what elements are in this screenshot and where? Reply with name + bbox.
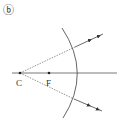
center-point (19, 72, 22, 75)
lower-reflected-ray (74, 99, 102, 111)
upper-reflected-ray (75, 34, 103, 47)
upper-ray-extension (20, 47, 75, 73)
center-label: C (16, 78, 22, 88)
focus-label: F (46, 78, 51, 88)
panel-label: ⓑ (3, 4, 14, 16)
focus-point (48, 72, 51, 75)
convex-mirror-diagram: ⓑ C F (0, 0, 123, 126)
